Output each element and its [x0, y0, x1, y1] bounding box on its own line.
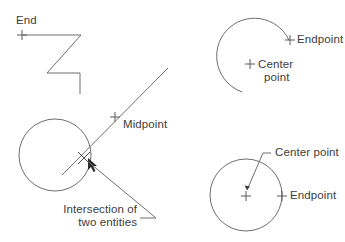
label-arc-center-line1: Center — [258, 58, 293, 71]
plus-marker-end — [17, 30, 27, 40]
z-shaped-polyline — [22, 35, 81, 94]
label-arc-endpoint: Endpoint — [297, 33, 343, 46]
plus-marker-arc-endpoint — [285, 35, 295, 45]
plus-marker-circle-center — [241, 191, 251, 201]
circle-left — [19, 119, 91, 191]
plus-marker-midpoint — [110, 112, 120, 122]
label-end: End — [16, 14, 37, 27]
label-arc-center-line2: point — [264, 71, 289, 84]
label-intersection-line2: two entities — [4, 216, 137, 229]
leader-line-center-point — [245, 153, 272, 190]
plus-marker-circle-endpoint — [277, 191, 287, 201]
label-circle-endpoint: Endpoint — [290, 189, 336, 202]
plus-marker-arc-center — [245, 59, 255, 69]
label-midpoint: Midpoint — [123, 118, 167, 131]
object-snap-diagram: End Midpoint Intersection of two entitie… — [0, 0, 345, 242]
label-circle-center-point: Center point — [275, 146, 339, 159]
label-intersection-line1: Intersection of — [4, 203, 137, 216]
